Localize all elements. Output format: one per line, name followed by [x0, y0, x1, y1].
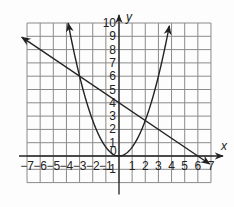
- x-tick-label: −4: [60, 159, 74, 173]
- x-tick-label: −6: [33, 159, 47, 173]
- x-tick-label: 5: [181, 159, 188, 173]
- y-tick-label: 8: [109, 43, 116, 57]
- x-tick-label: 6: [194, 159, 201, 173]
- x-tick-label: 1: [129, 159, 136, 173]
- y-tick-label: −1: [102, 162, 116, 176]
- y-tick-label: 10: [103, 16, 117, 30]
- x-axis-label: x: [220, 139, 228, 153]
- y-tick-label: 7: [109, 56, 116, 70]
- x-tick-label: 4: [168, 159, 175, 173]
- x-tick-label: 7: [208, 159, 215, 173]
- x-tick-label: −7: [20, 159, 34, 173]
- x-tick-label: −5: [46, 159, 60, 173]
- x-tick-label: 3: [155, 159, 162, 173]
- y-tick-label: 1: [109, 136, 116, 150]
- y-tick-label: 5: [109, 83, 116, 97]
- x-tick-label: 2: [142, 159, 149, 173]
- y-tick-label: 6: [109, 69, 116, 83]
- y-axis-label: y: [125, 10, 133, 24]
- x-tick-label: −3: [73, 159, 87, 173]
- coordinate-plane: xy−7−6−5−4−3−2−112345670−112345678910: [0, 0, 234, 207]
- y-tick-label: 3: [109, 109, 116, 123]
- y-tick-label: 2: [109, 122, 116, 136]
- x-tick-label: −2: [86, 159, 100, 173]
- y-tick-label: 9: [109, 29, 116, 43]
